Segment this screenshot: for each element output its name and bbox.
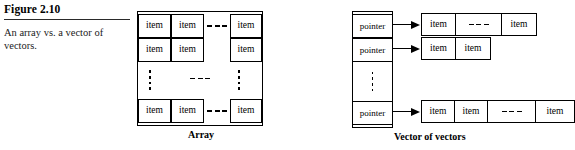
caption-divider: [4, 19, 130, 20]
array-row-right-cells: item: [230, 14, 262, 38]
array-row-left-cells: item item: [138, 38, 204, 62]
pointer-column: pointer pointer pointer: [352, 11, 393, 128]
vector-item-cell: item: [422, 38, 456, 59]
figure-caption-text: An array vs. a vector of vectors.: [4, 26, 132, 52]
array-row-ellipsis-dashes: [204, 14, 230, 38]
array-row: item item item: [138, 38, 262, 62]
array-row: item item item: [138, 14, 262, 38]
array-row-right-cells: item: [230, 38, 262, 62]
figure-caption-block: Figure 2.10 An array vs. a vector of vec…: [4, 2, 132, 52]
vertical-ellipsis-icon: [353, 71, 392, 92]
pointer-arrow-icon: [393, 44, 420, 53]
vector-of-vectors-diagram: pointer pointer pointer item item item i…: [352, 11, 548, 128]
array-diagram: item item item item item item: [137, 11, 263, 126]
vector-of-vectors-diagram-label: Vector of vectors: [394, 131, 466, 142]
vector-item-cell: item: [455, 101, 488, 122]
array-diagram-label: Array: [188, 129, 214, 140]
array-item-cell: item: [171, 38, 204, 62]
array-row-right-cells: item: [230, 99, 262, 123]
array-row-left-cells: item item: [138, 99, 204, 123]
vector-item-cell: item: [536, 101, 574, 122]
figure-number: Figure 2.10: [4, 2, 132, 16]
array-row-ellipsis-dashes: [204, 99, 230, 123]
array-ellipsis-row: [138, 62, 262, 99]
vector-row: item item: [421, 37, 491, 60]
pointer-cell: pointer: [353, 38, 392, 62]
vector-row: item item item: [421, 100, 575, 123]
array-row: item item item: [138, 99, 262, 123]
array-row-left-cells: item item: [138, 14, 204, 38]
vector-item-cell: item: [456, 38, 490, 59]
array-vertical-ellipsis-icon: [149, 70, 151, 90]
array-row-blank-gap: [204, 38, 230, 62]
array-item-cell: item: [230, 99, 262, 123]
pointer-cell: pointer: [353, 14, 392, 38]
array-vertical-ellipsis-icon: [238, 70, 240, 90]
array-item-cell: item: [230, 14, 262, 38]
array-item-cell: item: [138, 38, 171, 62]
vector-item-cell: item: [422, 101, 455, 122]
array-horizontal-ellipsis-icon: [182, 78, 218, 79]
vector-row: item item: [421, 13, 537, 36]
array-item-cell: item: [138, 14, 171, 38]
pointer-column-ellipsis-cell: [353, 62, 392, 101]
array-item-cell: item: [171, 14, 204, 38]
pointer-arrow-icon: [393, 107, 420, 116]
array-item-cell: item: [138, 99, 171, 123]
pointer-arrow-icon: [393, 20, 420, 29]
vector-item-cell: item: [502, 14, 536, 35]
vector-item-cell: item: [422, 14, 456, 35]
vector-row-ellipsis-dashes: [488, 101, 536, 122]
array-item-cell: item: [230, 38, 262, 62]
array-item-cell: item: [171, 99, 204, 123]
vector-row-ellipsis-dashes: [456, 14, 502, 35]
pointer-cell: pointer: [353, 101, 392, 125]
